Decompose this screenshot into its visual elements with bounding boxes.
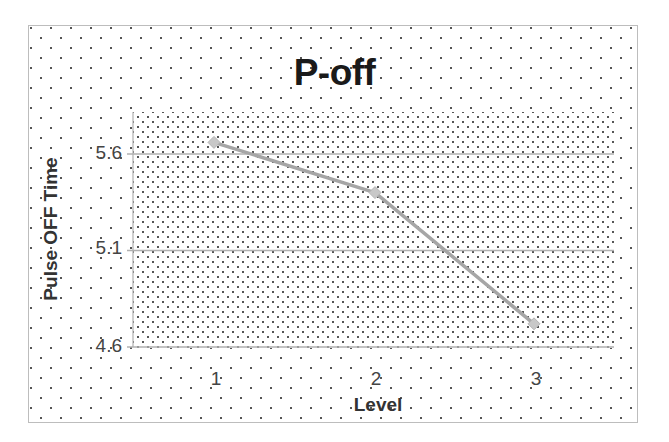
x-tick-label: 3 xyxy=(516,368,556,390)
y-tick-label: 5.1 xyxy=(62,237,122,259)
series-markers xyxy=(208,136,540,329)
gridlines xyxy=(127,154,614,347)
chart-title: P-off xyxy=(0,52,669,94)
x-tick-label: 1 xyxy=(196,368,236,390)
x-axis-label: Level xyxy=(318,394,438,416)
y-tick-label: 4.6 xyxy=(62,335,122,357)
x-tick-label: 2 xyxy=(356,368,396,390)
y-tick-label: 5.6 xyxy=(62,142,122,164)
series-line xyxy=(214,142,534,323)
data-point-marker xyxy=(208,136,220,148)
y-axis-label: Pulse OFF Time xyxy=(40,109,62,349)
